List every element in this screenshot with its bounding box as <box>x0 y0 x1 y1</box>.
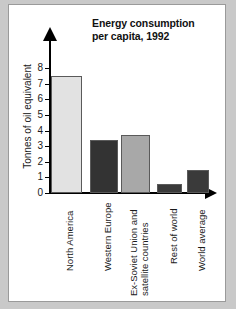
bar-label-western-europe: Western Europe <box>102 203 113 271</box>
y-tick-mark-0 <box>45 193 50 194</box>
y-axis-arrow-icon <box>43 27 57 41</box>
bar-label-world-average: World average <box>196 209 207 271</box>
y-tick-label-8: 8 <box>29 63 43 73</box>
bar-label-ex-soviet-union: Ex-Soviet Union and satellite countries <box>128 209 150 296</box>
y-tick-mark-2 <box>45 162 50 163</box>
bar-label-rest-of-world: Rest of world <box>168 209 179 264</box>
y-tick-mark-7 <box>45 84 50 85</box>
y-tick-mark-6 <box>45 99 50 100</box>
bar-north-america[interactable] <box>51 76 82 193</box>
y-tick-mark-5 <box>45 115 50 116</box>
y-tick-label-3: 3 <box>29 141 43 151</box>
y-tick-label-2: 2 <box>29 157 43 167</box>
y-tick-label-0: 0 <box>29 188 43 198</box>
bar-western-europe[interactable] <box>90 140 118 193</box>
y-tick-label-7: 7 <box>29 79 43 89</box>
bar-rest-of-world[interactable] <box>157 184 182 193</box>
bar-ex-soviet-union[interactable] <box>121 135 150 193</box>
y-tick-label-4: 4 <box>29 126 43 136</box>
bar-world-average[interactable] <box>187 170 209 193</box>
bar-label-north-america: North America <box>64 211 75 271</box>
figure-card: Energy consumption per capita, 1992 Tonn… <box>8 4 226 302</box>
y-tick-mark-1 <box>45 177 50 178</box>
y-tick-label-1: 1 <box>29 172 43 182</box>
y-tick-label-6: 6 <box>29 94 43 104</box>
y-tick-mark-8 <box>45 68 50 69</box>
y-tick-label-5: 5 <box>29 110 43 120</box>
plot-area: 8 7 6 5 4 3 2 1 0 North America Western … <box>9 5 227 303</box>
y-tick-mark-4 <box>45 131 50 132</box>
y-tick-mark-3 <box>45 146 50 147</box>
